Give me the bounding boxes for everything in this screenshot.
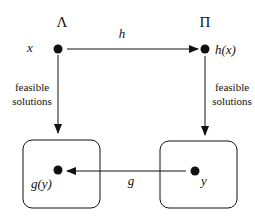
pi-solution-box <box>160 141 237 208</box>
lambda-symbol: Λ <box>57 14 68 30</box>
instance-hx-dot <box>201 45 210 54</box>
left-solutions-label: solutions <box>12 95 52 107</box>
right-solutions-label: solutions <box>212 95 252 107</box>
instance-x-dot <box>54 45 63 54</box>
left-feasible-label: feasible <box>15 81 49 93</box>
solution-gy-dot <box>54 166 63 175</box>
reduction-diagram: Λ Π x h h(x) feasible solutions feasible… <box>0 0 255 221</box>
g-label: g <box>128 173 135 188</box>
lambda-solution-box <box>23 140 100 208</box>
pi-symbol: Π <box>200 14 211 30</box>
solution-y-label: y <box>199 173 207 188</box>
instance-hx-label: h(x) <box>215 42 236 57</box>
h-label: h <box>119 26 126 41</box>
instance-x-label: x <box>26 40 33 55</box>
solution-y-dot <box>191 167 200 176</box>
right-feasible-label: feasible <box>215 81 249 93</box>
solution-gy-label: g(y) <box>31 176 52 191</box>
